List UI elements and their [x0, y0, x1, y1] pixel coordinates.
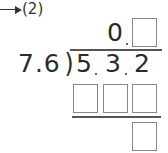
dividend-digit-2: 3 — [105, 51, 121, 77]
dividend-digit-3: 2 — [134, 51, 150, 77]
problem-number: (2) — [22, 0, 43, 18]
quotient-decimal-point — [126, 43, 128, 45]
remainder-box[interactable] — [132, 122, 157, 151]
product-box-3[interactable] — [132, 84, 157, 113]
division-bracket: ) — [65, 50, 74, 76]
product-box-1[interactable] — [73, 84, 98, 113]
arrow-head-icon — [15, 6, 22, 14]
subtraction-line — [72, 116, 161, 118]
dividend-decimal-1 — [95, 73, 97, 75]
quotient-answer-box[interactable] — [132, 18, 157, 47]
arrow-right-icon — [0, 9, 16, 10]
dividend-decimal-2 — [125, 73, 127, 75]
divisor: 7.6 — [18, 51, 61, 77]
dividend-digit-1: 5 — [76, 51, 92, 77]
product-box-2[interactable] — [103, 84, 128, 113]
quotient-digit-0: 0 — [107, 20, 123, 46]
